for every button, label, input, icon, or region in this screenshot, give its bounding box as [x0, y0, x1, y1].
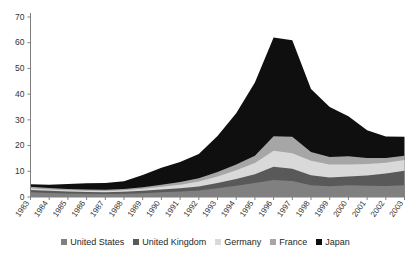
- x-tick-label: 2001: [350, 199, 368, 219]
- y-tick-label: 60: [15, 37, 25, 47]
- y-tick-label: 10: [15, 166, 25, 176]
- legend-swatch-icon: [133, 239, 139, 245]
- x-tick-label: 2000: [331, 199, 349, 219]
- x-tick-label: 1985: [51, 199, 69, 219]
- legend-swatch-icon: [61, 239, 67, 245]
- legend-swatch-icon: [270, 239, 276, 245]
- legend-label: United States: [70, 237, 124, 247]
- x-tick-label: 1993: [201, 199, 219, 219]
- legend-label: France: [279, 237, 307, 247]
- x-tick-group: [31, 197, 405, 200]
- plot-canvas: 706050403020100 198319841985198619871988…: [0, 0, 411, 260]
- x-tick-label: 1996: [257, 199, 275, 219]
- x-tick-label: 1987: [88, 199, 106, 219]
- y-tick-label: 50: [15, 63, 25, 73]
- x-tick-label: 1983: [14, 199, 32, 219]
- x-tick-label: 1990: [144, 199, 162, 219]
- x-tick-label: 1992: [182, 199, 200, 219]
- x-tick-label: 1989: [126, 199, 144, 219]
- legend-item-japan[interactable]: Japan: [316, 237, 350, 247]
- x-tick-label: 1988: [107, 199, 125, 219]
- legend-label: Germany: [224, 237, 261, 247]
- legend-label: Japan: [325, 237, 350, 247]
- y-tick-labels: 706050403020100: [15, 12, 25, 202]
- area-series-group: [31, 38, 405, 197]
- y-tick-label: 70: [15, 12, 25, 22]
- x-tick-label: 1999: [313, 199, 331, 219]
- chart-legend: United StatesUnited KingdomGermanyFrance…: [0, 234, 411, 250]
- x-tick-labels: 1983198419851986198719881989199019911992…: [14, 199, 406, 219]
- stacked-area-chart: 706050403020100 198319841985198619871988…: [0, 0, 411, 260]
- x-tick-label: 2002: [369, 199, 387, 219]
- x-tick-label: 1991: [163, 199, 181, 219]
- y-tick-label: 30: [15, 115, 25, 125]
- legend-item-united-states[interactable]: United States: [61, 237, 124, 247]
- x-tick-label: 1995: [238, 199, 256, 219]
- x-tick-label: 1997: [275, 199, 293, 219]
- x-tick-label: 1998: [294, 199, 312, 219]
- y-tick-label: 40: [15, 89, 25, 99]
- legend-item-united-kingdom[interactable]: United Kingdom: [133, 237, 206, 247]
- x-tick-label: 1984: [32, 199, 50, 219]
- x-tick-label: 1986: [70, 199, 88, 219]
- x-tick-label: 1994: [219, 199, 237, 219]
- legend-label: United Kingdom: [142, 237, 206, 247]
- y-tick-label: 20: [15, 140, 25, 150]
- legend-item-germany[interactable]: Germany: [215, 237, 261, 247]
- legend-swatch-icon: [316, 239, 322, 245]
- legend-swatch-icon: [215, 239, 221, 245]
- legend-item-france[interactable]: France: [270, 237, 307, 247]
- x-tick-label: 2003: [388, 199, 406, 219]
